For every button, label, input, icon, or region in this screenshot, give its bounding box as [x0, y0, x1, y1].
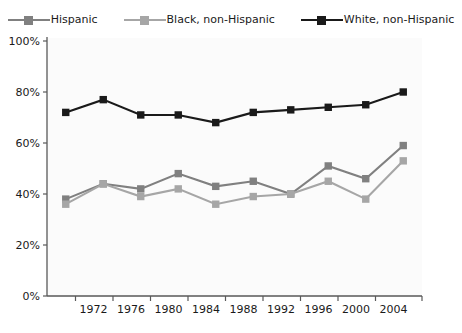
data-point-white-non-hispanic-1986[interactable] — [212, 119, 219, 126]
y-tick-label: 80% — [16, 86, 40, 99]
x-tick-label: 1976 — [117, 303, 145, 316]
data-point-white-non-hispanic-2002[interactable] — [362, 101, 369, 108]
data-point-white-non-hispanic-1970[interactable] — [62, 109, 69, 116]
legend-item-white-non-hispanic[interactable]: White, non-Hispanic — [301, 10, 454, 30]
x-tick-label: 1972 — [80, 303, 108, 316]
data-point-black-non-hispanic-1974[interactable] — [100, 180, 107, 187]
data-point-black-non-hispanic-1994[interactable] — [287, 190, 294, 197]
data-point-white-non-hispanic-2006[interactable] — [400, 88, 407, 95]
y-tick-label: 0% — [23, 290, 40, 303]
legend-label-hispanic: Hispanic — [50, 14, 98, 26]
x-tick-label: 1980 — [155, 303, 183, 316]
data-point-white-non-hispanic-1998[interactable] — [325, 104, 332, 111]
legend-swatch-black-non-hispanic-icon — [124, 14, 166, 26]
plot-area: 0%20%40%60%80%100% 197219761980198419881… — [0, 30, 462, 333]
x-tick-label: 1984 — [192, 303, 220, 316]
legend-label-black-non-hispanic: Black, non-Hispanic — [166, 14, 275, 26]
data-point-black-non-hispanic-1998[interactable] — [325, 178, 332, 185]
data-point-hispanic-1982[interactable] — [175, 170, 182, 177]
x-axis: 197219761980198419881992199620002004 — [47, 296, 422, 316]
y-tick-label: 40% — [16, 188, 40, 201]
x-tick-label: 1996 — [305, 303, 333, 316]
data-point-hispanic-2002[interactable] — [362, 175, 369, 182]
data-point-black-non-hispanic-2002[interactable] — [362, 195, 369, 202]
x-tick-label: 2000 — [342, 303, 370, 316]
data-point-white-non-hispanic-1974[interactable] — [100, 96, 107, 103]
data-point-black-non-hispanic-2006[interactable] — [400, 157, 407, 164]
y-axis: 0%20%40%60%80%100% — [9, 35, 47, 303]
x-tick-label: 2004 — [380, 303, 408, 316]
y-tick-label: 60% — [16, 137, 40, 150]
legend-item-black-non-hispanic[interactable]: Black, non-Hispanic — [124, 10, 275, 30]
legend-item-hispanic[interactable]: Hispanic — [8, 10, 98, 30]
data-point-black-non-hispanic-1982[interactable] — [175, 185, 182, 192]
data-point-hispanic-1990[interactable] — [250, 178, 257, 185]
data-point-white-non-hispanic-1982[interactable] — [175, 111, 182, 118]
chart-legend: Hispanic Black, non-Hispanic White, non-… — [0, 8, 462, 32]
plot-svg: 0%20%40%60%80%100% 197219761980198419881… — [0, 30, 462, 333]
data-point-black-non-hispanic-1970[interactable] — [62, 201, 69, 208]
line-chart: Hispanic Black, non-Hispanic White, non-… — [0, 0, 462, 333]
data-point-black-non-hispanic-1986[interactable] — [212, 201, 219, 208]
data-point-hispanic-1978[interactable] — [137, 185, 144, 192]
data-point-black-non-hispanic-1978[interactable] — [137, 193, 144, 200]
data-point-white-non-hispanic-1994[interactable] — [287, 106, 294, 113]
data-point-hispanic-2006[interactable] — [400, 142, 407, 149]
data-point-white-non-hispanic-1990[interactable] — [250, 109, 257, 116]
data-point-white-non-hispanic-1978[interactable] — [137, 111, 144, 118]
x-tick-label: 1992 — [267, 303, 295, 316]
x-tick-label: 1988 — [230, 303, 258, 316]
y-tick-label: 20% — [16, 239, 40, 252]
legend-swatch-white-non-hispanic-icon — [301, 14, 343, 26]
legend-label-white-non-hispanic: White, non-Hispanic — [343, 14, 454, 26]
data-point-black-non-hispanic-1990[interactable] — [250, 193, 257, 200]
data-point-hispanic-1998[interactable] — [325, 162, 332, 169]
plot-background — [47, 38, 422, 297]
data-point-hispanic-1986[interactable] — [212, 183, 219, 190]
y-tick-label: 100% — [9, 35, 40, 48]
legend-swatch-hispanic-icon — [8, 14, 50, 26]
